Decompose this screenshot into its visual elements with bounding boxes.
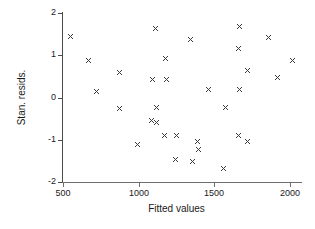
x-tick-mark [290,183,291,187]
y-tick-label-text: 0 [30,93,56,102]
x-tick-mark [214,183,215,187]
residual-scatter-plot: 210-1-2 500100015002000 Stan. resids. Fi… [0,0,315,229]
x-axis-title: Fitted values [63,203,290,215]
y-axis-title: Stan. resids. [15,13,28,182]
x-axis-line [62,182,302,183]
data-point [236,86,243,93]
data-point [222,104,229,111]
data-point [172,156,179,163]
data-point [235,132,242,139]
data-point [236,23,243,30]
data-point [93,88,100,95]
y-tick-label-text: 2 [30,8,56,17]
data-point [289,57,296,64]
y-tick-mark [58,182,62,183]
data-point [235,45,242,52]
y-tick-label-text: -1 [30,135,56,144]
data-point [161,132,168,139]
data-point [116,105,123,112]
x-tick-label: 1500 [194,189,234,198]
y-tick-label: 0 [26,93,56,102]
x-tick-mark [63,183,64,187]
data-point [149,76,156,83]
data-point [153,104,160,111]
data-point [205,86,212,93]
data-point [173,132,180,139]
data-point [85,57,92,64]
data-point [67,33,74,40]
data-point [162,55,169,62]
x-tick-label: 2000 [270,189,310,198]
data-point [220,165,227,172]
x-tick-mark [139,183,140,187]
data-point [194,138,201,145]
data-point [274,74,281,81]
y-tick-label-text: -2 [30,177,56,186]
y-tick-label: -2 [26,177,56,186]
data-point [116,69,123,76]
data-point [152,25,159,32]
y-tick-label: 1 [26,50,56,59]
data-point [163,76,170,83]
y-tick-label: 2 [26,8,56,17]
y-tick-mark [58,13,62,14]
data-point [265,34,272,41]
y-tick-label-text: 1 [30,50,56,59]
data-point [153,119,160,126]
data-point [244,67,251,74]
x-tick-label: 1000 [119,189,159,198]
data-point [244,138,251,145]
y-tick-label: -1 [26,135,56,144]
x-tick-label: 500 [43,189,83,198]
plot-data-area [63,13,290,182]
y-tick-mark [58,55,62,56]
y-tick-mark [58,140,62,141]
y-tick-mark [58,98,62,99]
data-point [195,146,202,153]
data-point [189,158,196,165]
data-point [134,141,141,148]
data-point [187,36,194,43]
